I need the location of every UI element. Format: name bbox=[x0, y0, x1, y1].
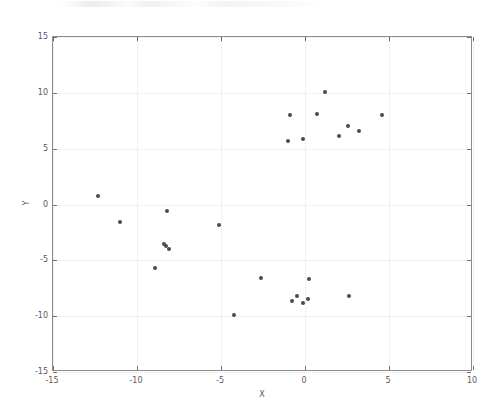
x-tick-mark-top bbox=[305, 37, 306, 41]
y-tick-mark bbox=[53, 149, 57, 150]
gridline-horizontal bbox=[53, 372, 471, 373]
scatter-point bbox=[96, 194, 100, 198]
y-tick-label: -5 bbox=[24, 255, 48, 264]
scatter-point bbox=[307, 277, 311, 281]
x-tick-label: -10 bbox=[129, 376, 142, 385]
x-tick-mark bbox=[137, 366, 138, 370]
scatter-point bbox=[118, 220, 122, 224]
y-tick-label: 15 bbox=[24, 32, 48, 41]
y-tick-mark-right bbox=[467, 149, 471, 150]
x-axis-title: X bbox=[259, 390, 264, 399]
scan-artifact-strip bbox=[60, 1, 320, 7]
x-tick-label: 5 bbox=[385, 376, 390, 385]
y-tick-mark bbox=[53, 316, 57, 317]
gridline-horizontal bbox=[53, 260, 471, 261]
x-tick-mark bbox=[221, 366, 222, 370]
y-tick-mark bbox=[53, 372, 57, 373]
scatter-point bbox=[217, 223, 221, 227]
x-tick-label: 10 bbox=[467, 376, 477, 385]
plot-axes-area bbox=[52, 36, 472, 371]
gridline-horizontal bbox=[53, 93, 471, 94]
scatter-point bbox=[315, 112, 319, 116]
y-tick-label: -15 bbox=[24, 367, 48, 376]
scatter-point bbox=[288, 113, 292, 117]
scatter-point bbox=[290, 299, 294, 303]
scatter-point bbox=[346, 124, 350, 128]
x-tick-mark-top bbox=[221, 37, 222, 41]
y-tick-mark-right bbox=[467, 93, 471, 94]
x-tick-mark bbox=[473, 366, 474, 370]
gridline-horizontal bbox=[53, 149, 471, 150]
scatter-point bbox=[165, 209, 169, 213]
gridline-horizontal bbox=[53, 205, 471, 206]
x-tick-label: -5 bbox=[216, 376, 224, 385]
x-tick-label: -15 bbox=[45, 376, 58, 385]
y-tick-mark-right bbox=[467, 37, 471, 38]
y-tick-mark bbox=[53, 37, 57, 38]
gridline-horizontal bbox=[53, 316, 471, 317]
x-tick-mark bbox=[389, 366, 390, 370]
scatter-point bbox=[259, 276, 263, 280]
scatter-point bbox=[153, 266, 157, 270]
x-tick-mark bbox=[305, 366, 306, 370]
y-tick-mark bbox=[53, 260, 57, 261]
x-tick-mark-top bbox=[137, 37, 138, 41]
y-tick-label: -10 bbox=[24, 311, 48, 320]
gridline-vertical bbox=[53, 37, 54, 370]
y-tick-mark bbox=[53, 93, 57, 94]
y-tick-mark-right bbox=[467, 260, 471, 261]
scatter-point bbox=[295, 294, 299, 298]
scatter-plot-figure: -15-10-50510 -15-10-5051015 X Y bbox=[0, 0, 499, 419]
y-tick-mark-right bbox=[467, 316, 471, 317]
scatter-point bbox=[357, 129, 361, 133]
scatter-point bbox=[301, 137, 305, 141]
scatter-point bbox=[337, 134, 341, 138]
y-tick-label: 10 bbox=[24, 87, 48, 96]
x-tick-mark-top bbox=[473, 37, 474, 41]
gridline-vertical bbox=[305, 37, 306, 370]
scatter-point bbox=[167, 247, 171, 251]
y-tick-mark bbox=[53, 205, 57, 206]
scatter-point bbox=[306, 297, 310, 301]
scatter-point bbox=[347, 294, 351, 298]
x-tick-label: 0 bbox=[301, 376, 306, 385]
gridline-vertical bbox=[389, 37, 390, 370]
y-tick-mark-right bbox=[467, 205, 471, 206]
gridline-vertical bbox=[137, 37, 138, 370]
gridline-horizontal bbox=[53, 37, 471, 38]
gridline-vertical bbox=[473, 37, 474, 370]
y-tick-label: 5 bbox=[24, 143, 48, 152]
x-tick-mark bbox=[53, 366, 54, 370]
x-tick-mark-top bbox=[389, 37, 390, 41]
scatter-point bbox=[380, 113, 384, 117]
y-axis-title: Y bbox=[22, 201, 31, 206]
gridline-vertical bbox=[221, 37, 222, 370]
y-tick-mark-right bbox=[467, 372, 471, 373]
scatter-point bbox=[286, 139, 290, 143]
